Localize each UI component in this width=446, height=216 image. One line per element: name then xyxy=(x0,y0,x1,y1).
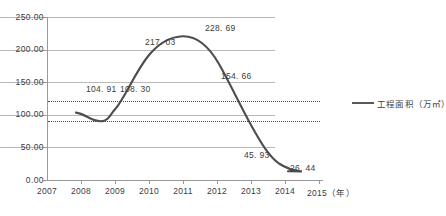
data-label-104-91: 104. 91 xyxy=(86,85,116,94)
data-label-45-93: 45. 93 xyxy=(244,151,269,160)
chart-container: 250.00 200.00 150.00 100.00 50.00 0.00 2… xyxy=(0,0,446,216)
data-label-217-03: 217. 03 xyxy=(145,38,175,47)
data-label-26-44: 26. 44 xyxy=(290,164,315,173)
y-axis-label-200: 200.00 xyxy=(0,45,44,54)
legend-line-swatch-icon xyxy=(352,102,374,104)
y-axis-label-250: 250.00 xyxy=(0,13,44,22)
y-axis-label-100: 100.00 xyxy=(0,110,44,119)
data-label-108-30: 108. 30 xyxy=(120,85,150,94)
y-axis-label-0: 0.00 xyxy=(0,176,44,185)
y-axis-label-150: 150.00 xyxy=(0,78,44,87)
series-工程面积 xyxy=(47,17,322,181)
x-axis-label-2015: 2015（年） xyxy=(299,186,367,198)
data-label-228-69: 228. 69 xyxy=(205,24,235,33)
chart-legend: 工程面积（万㎡） xyxy=(352,97,446,109)
y-axis-label-50: 50.00 xyxy=(0,143,44,152)
legend-label-工程面积: 工程面积（万㎡） xyxy=(377,97,446,109)
data-label-154-66: 154. 66 xyxy=(221,72,251,81)
